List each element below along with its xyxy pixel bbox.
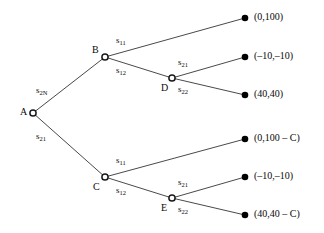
action-base: s xyxy=(116,65,120,75)
game-tree-figure: A B C D E s2N s21 s11 s12 s21 s22 s11 s1… xyxy=(0,0,324,233)
action-base: s xyxy=(178,177,182,187)
edge-layer xyxy=(33,18,245,215)
node-label-b: B xyxy=(92,45,99,55)
action-label-a-lower: s21 xyxy=(36,132,46,141)
node-label-c: C xyxy=(93,182,100,192)
action-subscript: 11 xyxy=(120,159,126,166)
tree-edge xyxy=(33,57,105,113)
action-label-a-upper: s2N xyxy=(36,86,47,95)
decision-node-c xyxy=(102,174,108,180)
action-subscript: 21 xyxy=(40,135,46,142)
action-subscript: 12 xyxy=(120,69,126,76)
node-label-e: E xyxy=(161,203,167,213)
action-base: s xyxy=(178,204,182,214)
action-subscript: 21 xyxy=(182,61,188,68)
decision-node-d xyxy=(169,75,175,81)
action-subscript: 11 xyxy=(120,39,126,46)
action-base: s xyxy=(36,131,40,141)
decision-node-b xyxy=(102,54,108,60)
action-label-b-lower: s12 xyxy=(116,66,126,75)
action-base: s xyxy=(116,155,120,165)
tree-edge xyxy=(105,139,245,177)
payoff-label: (–10,–10) xyxy=(254,171,293,181)
decision-node-a xyxy=(30,110,36,116)
action-label-e-upper: s21 xyxy=(178,178,188,187)
terminal-node xyxy=(242,174,249,181)
action-base: s xyxy=(116,185,120,195)
action-subscript: 12 xyxy=(120,189,126,196)
payoff-label: (40,40) xyxy=(254,89,283,99)
action-base: s xyxy=(116,35,120,45)
action-label-c-lower: s12 xyxy=(116,186,126,195)
action-subscript: 22 xyxy=(182,208,188,215)
node-label-d: D xyxy=(161,83,168,93)
action-label-e-lower: s22 xyxy=(178,205,188,214)
payoff-label: (40,40 – C) xyxy=(254,209,300,219)
terminal-node xyxy=(242,212,249,219)
action-base: s xyxy=(36,85,40,95)
action-base: s xyxy=(178,84,182,94)
action-label-d-lower: s22 xyxy=(178,85,188,94)
terminal-node xyxy=(242,136,249,143)
terminal-node xyxy=(242,15,249,22)
game-tree-canvas xyxy=(0,0,324,233)
action-label-c-upper: s11 xyxy=(116,156,126,165)
action-label-d-upper: s21 xyxy=(178,58,188,67)
tree-edge xyxy=(105,18,245,57)
node-label-a: A xyxy=(20,107,27,117)
action-subscript: 22 xyxy=(182,88,188,95)
action-base: s xyxy=(178,57,182,67)
decision-node-e xyxy=(169,195,175,201)
action-label-b-upper: s11 xyxy=(116,36,126,45)
action-subscript: 21 xyxy=(182,181,188,188)
payoff-label: (0,100 – C) xyxy=(254,133,300,143)
terminal-node xyxy=(242,54,249,61)
payoff-label: (0,100) xyxy=(254,12,283,22)
tree-edge xyxy=(33,113,105,177)
terminal-node xyxy=(242,92,249,99)
action-subscript: 2N xyxy=(40,89,48,96)
payoff-label: (–10,–10) xyxy=(254,51,293,61)
